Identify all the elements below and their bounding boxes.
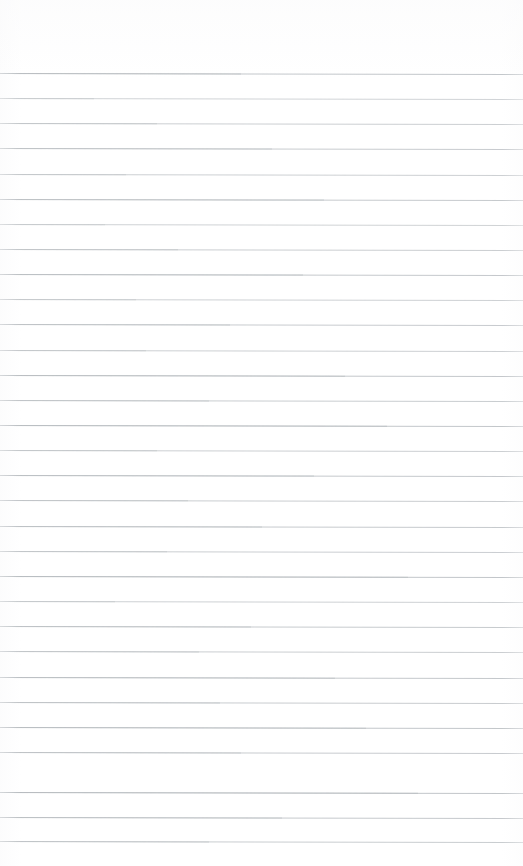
rule-line: [0, 299, 523, 301]
rule-line: [0, 400, 523, 402]
rule-line: [0, 174, 523, 176]
rule-line: [0, 475, 523, 477]
rule-line: [0, 199, 523, 201]
rule-line: [0, 350, 523, 352]
rule-line: [0, 324, 523, 326]
rule-line: [0, 274, 523, 276]
rule-line: [0, 651, 523, 653]
rule-line: [0, 425, 523, 427]
rule-line: [0, 601, 523, 603]
rule-line: [0, 792, 523, 794]
rule-line: [0, 98, 523, 100]
rule-line: [0, 73, 523, 75]
rule-line: [0, 841, 523, 843]
rule-line: [0, 752, 523, 754]
rule-line: [0, 123, 523, 125]
rule-line: [0, 500, 523, 502]
rule-line: [0, 626, 523, 628]
rule-line: [0, 817, 523, 819]
rule-line: [0, 526, 523, 528]
ruled-lines-layer: [0, 0, 523, 866]
rule-line: [0, 148, 523, 150]
rule-line: [0, 677, 523, 679]
rule-line: [0, 375, 523, 377]
rule-line: [0, 727, 523, 729]
rule-line: [0, 551, 523, 553]
ruled-paper-page: [0, 0, 523, 866]
rule-line: [0, 249, 523, 251]
rule-line: [0, 224, 523, 226]
rule-line: [0, 450, 523, 452]
rule-line: [0, 702, 523, 704]
rule-line: [0, 576, 523, 578]
